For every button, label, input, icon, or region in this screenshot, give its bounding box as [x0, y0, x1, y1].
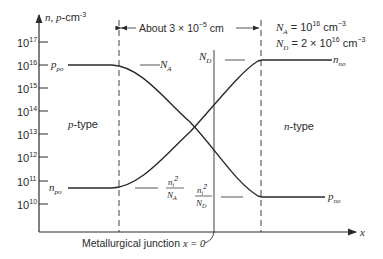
svg-text:1012: 1012	[17, 151, 37, 164]
label-npo: npo	[49, 181, 62, 196]
svg-text:ni2: ni2	[168, 175, 178, 188]
svg-text:1017: 1017	[17, 36, 37, 49]
y-tick-labels: 1017 1016 1015 1014 1013 1012 1011 1010	[17, 36, 37, 211]
dimension-label: About 3 × 10−5 cm	[139, 21, 224, 34]
svg-text:1011: 1011	[17, 175, 37, 188]
label-nno: nno	[333, 53, 346, 68]
param-nd: ND = 2 × 1016 cm−3	[275, 36, 365, 52]
svg-text:ni2: ni2	[197, 183, 207, 196]
label-pno: pno	[327, 190, 341, 205]
ni2-over-na-label: ni2 NA	[166, 175, 184, 201]
svg-text:1013: 1013	[17, 128, 37, 141]
dimension-arrowhead-left	[121, 26, 127, 31]
svg-text:1016: 1016	[17, 59, 37, 72]
param-na: NA = 1016 cm−3	[275, 20, 346, 36]
p-type-label: p-type	[67, 118, 98, 130]
ni2-over-nd-label: ni2 ND	[195, 183, 212, 209]
junction-label: Metallurgical junction x = 0	[82, 237, 206, 249]
svg-text:1014: 1014	[17, 105, 37, 118]
label-na-level: NA	[159, 58, 172, 73]
svg-text:1015: 1015	[17, 82, 37, 95]
y-ticks	[39, 42, 48, 204]
pn-junction-diagram: n, p-cm-3 1017 1016 1015 1014 1013 1012 …	[0, 0, 383, 259]
dimension-arrowhead-right	[253, 26, 259, 31]
label-nd-level: ND	[198, 50, 211, 65]
svg-text:ND: ND	[195, 198, 207, 209]
junction-pointer	[205, 232, 214, 243]
label-ppo: ppo	[50, 58, 64, 73]
n-type-label: n-type	[284, 120, 314, 132]
y-axis-label: n, p-cm-3	[45, 11, 86, 23]
x-axis-label: x	[359, 226, 365, 238]
svg-text:NA: NA	[166, 190, 177, 201]
svg-text:1010: 1010	[17, 198, 37, 211]
